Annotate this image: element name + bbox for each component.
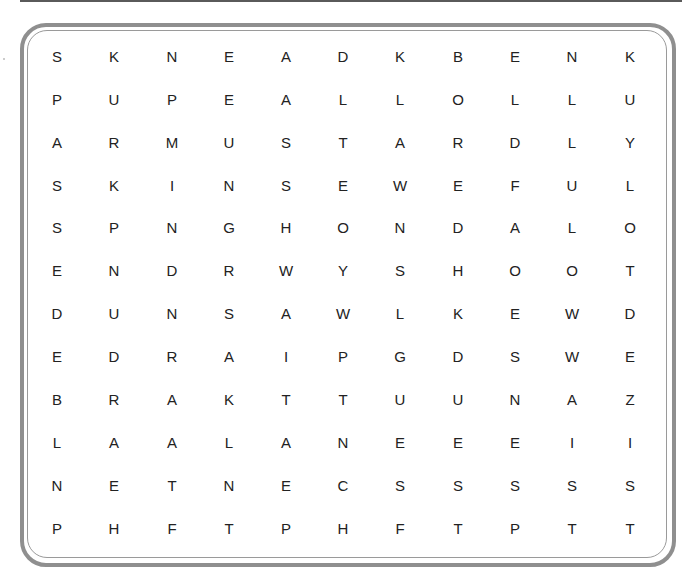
grid-cell[interactable]: N [42, 476, 72, 496]
grid-cell[interactable]: S [271, 176, 301, 196]
grid-cell[interactable]: U [557, 176, 587, 196]
grid-cell[interactable]: A [271, 47, 301, 67]
grid-cell[interactable]: E [500, 304, 530, 324]
grid-cell[interactable]: U [615, 90, 645, 110]
grid-cell[interactable]: T [615, 519, 645, 539]
grid-cell[interactable]: O [443, 90, 473, 110]
grid-cell[interactable]: S [500, 476, 530, 496]
grid-cell[interactable]: L [557, 218, 587, 238]
grid-cell[interactable]: L [385, 90, 415, 110]
grid-cell[interactable]: N [157, 304, 187, 324]
grid-cell[interactable]: D [328, 47, 358, 67]
grid-cell[interactable]: K [443, 304, 473, 324]
grid-cell[interactable]: T [557, 519, 587, 539]
grid-cell[interactable]: S [443, 476, 473, 496]
grid-cell[interactable]: N [214, 476, 244, 496]
grid-cell[interactable]: E [214, 90, 244, 110]
grid-cell[interactable]: D [157, 261, 187, 281]
grid-cell[interactable]: F [385, 519, 415, 539]
grid-cell[interactable]: L [615, 176, 645, 196]
grid-cell[interactable]: R [157, 347, 187, 367]
grid-cell[interactable]: S [42, 176, 72, 196]
grid-cell[interactable]: E [443, 433, 473, 453]
grid-cell[interactable]: E [328, 176, 358, 196]
grid-cell[interactable]: G [214, 218, 244, 238]
grid-cell[interactable]: I [157, 176, 187, 196]
grid-cell[interactable]: Y [328, 261, 358, 281]
grid-cell[interactable]: T [214, 519, 244, 539]
grid-cell[interactable]: S [385, 261, 415, 281]
grid-cell[interactable]: G [385, 347, 415, 367]
grid-cell[interactable]: E [500, 47, 530, 67]
grid-cell[interactable]: K [615, 47, 645, 67]
grid-cell[interactable]: P [500, 519, 530, 539]
grid-cell[interactable]: U [99, 90, 129, 110]
grid-cell[interactable]: E [443, 176, 473, 196]
grid-cell[interactable]: N [157, 47, 187, 67]
grid-cell[interactable]: U [385, 390, 415, 410]
grid-cell[interactable]: W [557, 347, 587, 367]
grid-cell[interactable]: D [443, 347, 473, 367]
grid-cell[interactable]: E [385, 433, 415, 453]
grid-cell[interactable]: A [557, 390, 587, 410]
grid-cell[interactable]: N [214, 176, 244, 196]
grid-cell[interactable]: P [271, 519, 301, 539]
grid-cell[interactable]: F [500, 176, 530, 196]
grid-cell[interactable]: A [214, 347, 244, 367]
grid-cell[interactable]: D [443, 218, 473, 238]
grid-cell[interactable]: D [42, 304, 72, 324]
grid-cell[interactable]: E [99, 476, 129, 496]
grid-cell[interactable]: P [42, 519, 72, 539]
grid-cell[interactable]: O [557, 261, 587, 281]
grid-cell[interactable]: K [385, 47, 415, 67]
grid-cell[interactable]: I [271, 347, 301, 367]
grid-cell[interactable]: N [99, 261, 129, 281]
grid-cell[interactable]: W [557, 304, 587, 324]
grid-cell[interactable]: P [328, 347, 358, 367]
grid-cell[interactable]: L [500, 90, 530, 110]
grid-cell[interactable]: A [271, 90, 301, 110]
grid-cell[interactable]: N [385, 218, 415, 238]
grid-cell[interactable]: H [443, 261, 473, 281]
grid-cell[interactable]: L [42, 433, 72, 453]
grid-cell[interactable]: S [500, 347, 530, 367]
grid-cell[interactable]: K [99, 47, 129, 67]
grid-cell[interactable]: L [557, 133, 587, 153]
grid-cell[interactable]: K [99, 176, 129, 196]
grid-cell[interactable]: A [157, 433, 187, 453]
grid-cell[interactable]: I [557, 433, 587, 453]
grid-cell[interactable]: R [99, 133, 129, 153]
grid-cell[interactable]: O [500, 261, 530, 281]
grid-cell[interactable]: T [157, 476, 187, 496]
grid-cell[interactable]: A [157, 390, 187, 410]
grid-cell[interactable]: N [328, 433, 358, 453]
grid-cell[interactable]: R [443, 133, 473, 153]
grid-cell[interactable]: T [443, 519, 473, 539]
grid-cell[interactable]: Y [615, 133, 645, 153]
grid-cell[interactable]: E [42, 261, 72, 281]
grid-cell[interactable]: S [271, 133, 301, 153]
grid-cell[interactable]: D [500, 133, 530, 153]
grid-cell[interactable]: P [157, 90, 187, 110]
grid-cell[interactable]: Z [615, 390, 645, 410]
grid-cell[interactable]: C [328, 476, 358, 496]
grid-cell[interactable]: R [214, 261, 244, 281]
grid-cell[interactable]: E [42, 347, 72, 367]
grid-cell[interactable]: O [615, 218, 645, 238]
grid-cell[interactable]: N [557, 47, 587, 67]
grid-cell[interactable]: D [615, 304, 645, 324]
grid-cell[interactable]: T [271, 390, 301, 410]
grid-cell[interactable]: S [557, 476, 587, 496]
grid-cell[interactable]: S [385, 476, 415, 496]
grid-cell[interactable]: L [557, 90, 587, 110]
grid-cell[interactable]: T [328, 390, 358, 410]
grid-cell[interactable]: I [615, 433, 645, 453]
grid-cell[interactable]: H [328, 519, 358, 539]
grid-cell[interactable]: L [385, 304, 415, 324]
grid-cell[interactable]: L [328, 90, 358, 110]
grid-cell[interactable]: P [99, 218, 129, 238]
grid-cell[interactable]: N [500, 390, 530, 410]
grid-cell[interactable]: U [443, 390, 473, 410]
grid-cell[interactable]: A [385, 133, 415, 153]
grid-cell[interactable]: S [42, 218, 72, 238]
